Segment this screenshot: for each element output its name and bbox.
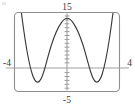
scan-artifact [2,2,6,5]
y-min-label: -5 [63,95,71,105]
graph-svg: 15 -5 -4 4 [0,0,135,107]
x-min-label: -4 [3,58,11,68]
x-max-label: 4 [127,58,132,68]
y-max-label: 15 [62,2,72,12]
graph-figure: 15 -5 -4 4 [0,0,135,107]
